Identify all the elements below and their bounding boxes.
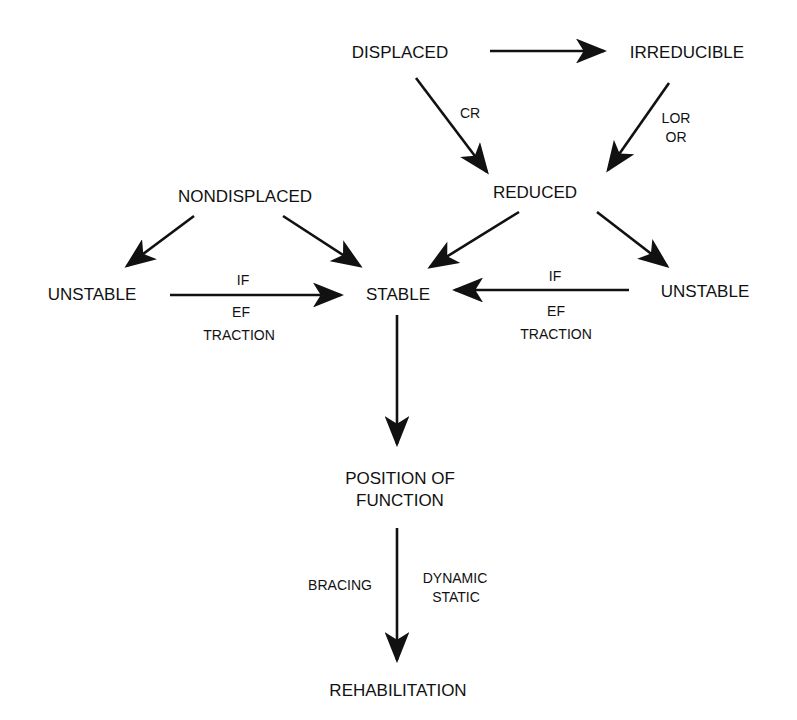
label-or: OR	[666, 129, 687, 145]
edge-labels: CR LOR OR IF EF TRACTION IF EF TRACTION …	[203, 105, 690, 605]
arrow-nondisplaced-to-unstable	[127, 216, 194, 266]
node-stable: STABLE	[366, 285, 430, 304]
node-unstable-right: UNSTABLE	[661, 282, 750, 301]
label-dynamic: DYNAMIC	[423, 570, 488, 586]
label-left-ef: EF	[232, 304, 250, 320]
arrow-irreducible-to-reduced	[608, 83, 669, 170]
label-right-traction: TRACTION	[520, 326, 592, 342]
label-cr: CR	[460, 105, 480, 121]
node-reduced: REDUCED	[493, 183, 577, 202]
label-right-if: IF	[549, 268, 561, 284]
label-static: STATIC	[432, 589, 480, 605]
label-lor: LOR	[662, 110, 691, 126]
node-position-of-function-line1: POSITION OF	[345, 469, 455, 488]
arrow-displaced-to-reduced	[416, 78, 487, 172]
node-irreducible: IRREDUCIBLE	[630, 43, 744, 62]
fracture-management-flowchart: DISPLACED IRREDUCIBLE REDUCED NONDISPLAC…	[0, 0, 797, 720]
arrow-nondisplaced-to-stable	[283, 216, 360, 266]
node-rehabilitation: REHABILITATION	[329, 681, 466, 700]
label-left-if: IF	[237, 272, 249, 288]
node-nondisplaced: NONDISPLACED	[178, 187, 312, 206]
node-unstable-left: UNSTABLE	[48, 285, 137, 304]
node-displaced: DISPLACED	[352, 43, 448, 62]
node-position-of-function-line2: FUNCTION	[356, 491, 444, 510]
arrow-reduced-to-unstable	[597, 212, 667, 266]
label-left-traction: TRACTION	[203, 327, 275, 343]
arrow-reduced-to-stable	[430, 212, 519, 267]
label-right-ef: EF	[547, 303, 565, 319]
nodes: DISPLACED IRREDUCIBLE REDUCED NONDISPLAC…	[48, 43, 750, 700]
label-bracing: BRACING	[308, 577, 372, 593]
edges	[127, 51, 669, 660]
